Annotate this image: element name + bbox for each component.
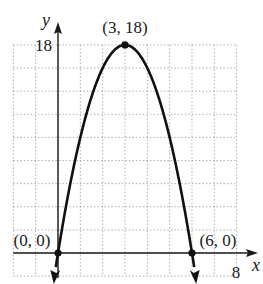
key-point-marker — [188, 249, 195, 256]
x-axis-label: x — [251, 255, 260, 275]
parabola-chart: y 18 8 x (3, 18) (0, 0) (6, 0) — [0, 0, 263, 284]
key-point-marker — [121, 41, 128, 48]
root-label: (6, 0) — [200, 231, 237, 250]
y-axis-label: y — [40, 10, 50, 30]
y-tick-18: 18 — [35, 36, 52, 55]
x-tick-8: 8 — [232, 263, 241, 282]
vertex-label: (3, 18) — [102, 18, 147, 37]
parabola-curve — [56, 45, 194, 267]
curve-left-arrow-icon — [50, 270, 60, 284]
curve-right-arrow-icon — [190, 270, 200, 284]
key-point-marker — [54, 249, 61, 256]
origin-label: (0, 0) — [14, 231, 51, 250]
